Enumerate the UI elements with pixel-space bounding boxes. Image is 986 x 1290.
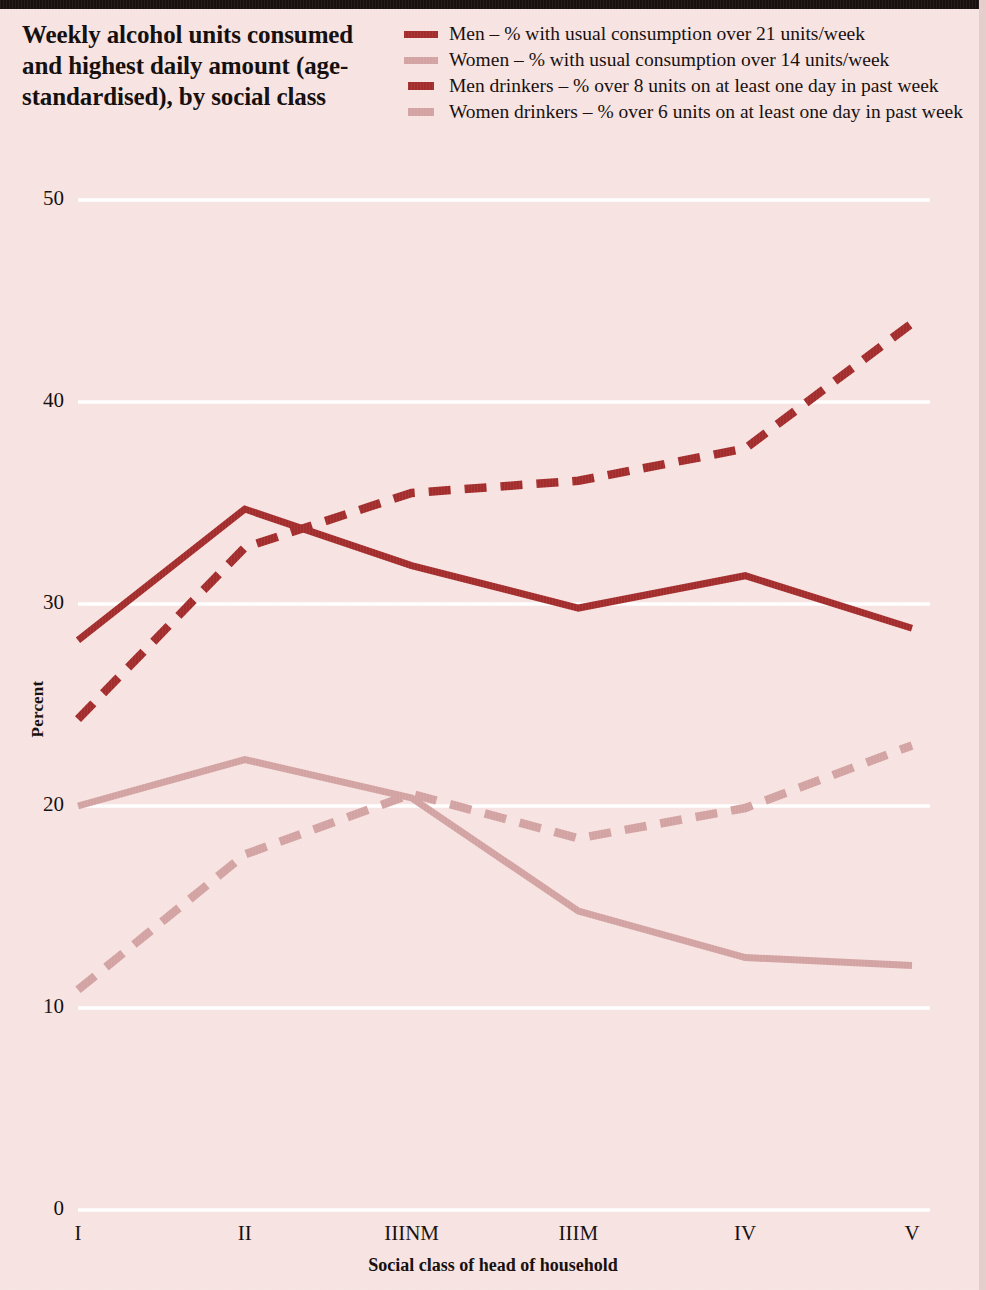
series-line <box>78 509 912 640</box>
chart-canvas <box>0 9 986 1290</box>
y-tick-label: 30 <box>14 590 64 615</box>
x-tick-label: II <box>175 1221 315 1246</box>
series-line <box>78 323 912 719</box>
plot-area: 01020304050 IIIIIINMIIIMIVV Percent Soci… <box>0 9 986 1290</box>
x-tick-label: IV <box>675 1221 815 1246</box>
gridlines <box>78 200 930 1210</box>
series-line <box>78 760 912 966</box>
page-right-edge <box>979 0 986 1290</box>
x-tick-label: IIIM <box>508 1221 648 1246</box>
y-axis-title: Percent <box>28 649 48 769</box>
x-axis-title: Social class of head of household <box>0 1255 986 1276</box>
x-tick-label: I <box>8 1221 148 1246</box>
series-line <box>78 745 912 989</box>
y-tick-label: 50 <box>14 186 64 211</box>
data-series-layer <box>78 323 912 990</box>
y-tick-label: 10 <box>14 994 64 1019</box>
x-tick-label: IIINM <box>342 1221 482 1246</box>
x-tick-label: V <box>842 1221 982 1246</box>
y-tick-label: 0 <box>14 1196 64 1221</box>
top-rule-divider <box>0 0 986 9</box>
chart-figure: Weekly alcohol units consumed and highes… <box>0 9 986 1290</box>
y-tick-label: 40 <box>14 388 64 413</box>
y-tick-label: 20 <box>14 792 64 817</box>
